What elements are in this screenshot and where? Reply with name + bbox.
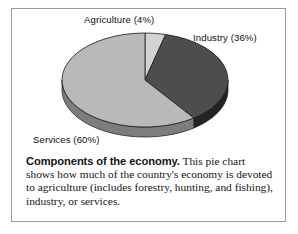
pie-label-industry: Industry (36%) — [193, 32, 257, 43]
pie-label-agriculture: Agriculture (4%) — [84, 14, 154, 25]
figure-container: Agriculture (4%) Industry (36%) Services… — [0, 0, 298, 234]
pie-label-services: Services (60%) — [33, 134, 99, 145]
caption-lead: Components of the economy. — [26, 155, 180, 167]
figure-caption: Components of the economy. This pie char… — [26, 155, 274, 208]
pie-chart: Agriculture (4%) Industry (36%) Services… — [0, 0, 298, 152]
